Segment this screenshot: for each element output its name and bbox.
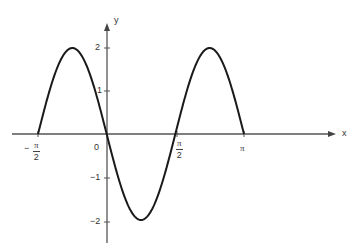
x-tick-label-pi: π: [240, 144, 245, 153]
y-tick-label-2: 2: [95, 43, 100, 52]
x-tick-neg-half-pi-num: π: [33, 141, 40, 152]
x-tick-label-neg-half-pi: π 2: [33, 141, 40, 162]
y-axis-label: y: [114, 16, 119, 25]
y-tick-label-1: 1: [97, 86, 102, 95]
y-axis-arrow-icon: [104, 23, 110, 31]
x-tick-neg-sign: −: [24, 143, 29, 153]
x-axis-label: x: [342, 129, 347, 138]
x-tick-half-pi-den: 2: [176, 150, 183, 160]
x-tick-neg-half-pi-den: 2: [33, 152, 40, 162]
y-tick-label-neg1: −1: [90, 173, 100, 182]
x-tick-label-half-pi: π 2: [176, 139, 183, 160]
sine-chart: [0, 0, 358, 250]
y-tick-label-neg2: −2: [90, 217, 100, 226]
origin-label: 0: [94, 143, 99, 152]
x-tick-half-pi-num: π: [176, 139, 183, 150]
x-axis-arrow-icon: [328, 131, 336, 137]
